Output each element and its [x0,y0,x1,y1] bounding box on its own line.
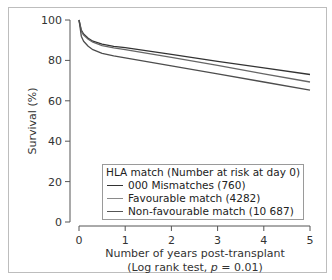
y-tick-label: 100 [41,14,62,27]
legend-swatch [107,185,123,186]
legend: HLA match (Number at risk at day 0) 000 … [102,164,304,220]
y-axis-title: Survival (%) [26,88,39,155]
x-tick-label: 2 [168,234,175,247]
legend-swatch [107,198,123,199]
legend-item-000-mismatches: 000 Mismatches (760) [106,179,300,192]
x-axis-subtitle: (Log rank test, p = 0.01) [127,261,263,274]
series-line-1 [79,20,310,82]
legend-item-non-favourable: Non-favourable match (10 687) [106,205,300,218]
survival-chart: 020406080100012345Survival (%)Number of … [0,0,332,280]
series-line-2 [79,20,310,90]
x-axis-title: Number of years post-transplant [105,247,285,260]
y-tick-label: 80 [48,54,62,67]
y-tick-label: 60 [48,95,62,108]
y-tick-label: 0 [55,216,62,229]
x-tick-label: 4 [260,234,267,247]
legend-item-favourable: Favourable match (4282) [106,192,300,205]
legend-title: HLA match (Number at risk at day 0) [106,166,300,179]
x-tick-label: 5 [307,234,314,247]
x-tick-label: 3 [214,234,221,247]
y-tick-label: 20 [48,176,62,189]
x-tick-label: 1 [122,234,129,247]
x-tick-label: 0 [76,234,83,247]
legend-swatch [107,211,123,212]
y-tick-label: 40 [48,135,62,148]
